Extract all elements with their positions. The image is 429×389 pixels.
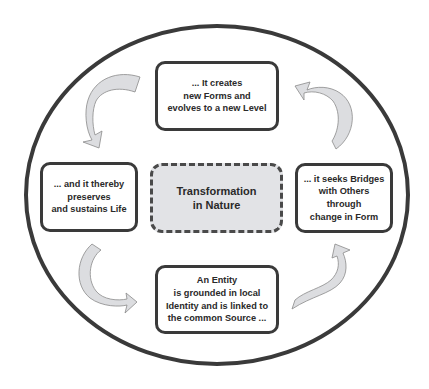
curved-arrow-icon-top-right [295, 82, 352, 149]
node-bottom-line: the common Source ... [168, 312, 267, 325]
node-top-line: evolves to a new Level [167, 102, 266, 115]
curved-arrow-icon-bottom-right [292, 244, 350, 309]
node-right-line: ... it seeks Bridges [304, 173, 385, 186]
node-top: ... It creates new Forms and evolves to … [155, 61, 279, 131]
node-bottom-line: is grounded in local [174, 287, 261, 300]
node-right-line: change in Form [310, 211, 378, 224]
node-left-line: preserves [67, 191, 110, 204]
node-right: ... it seeks Bridges with Others through… [295, 163, 393, 233]
center-title-line: Transformation [176, 184, 256, 199]
curved-arrow-icon-bottom-left [79, 244, 137, 313]
node-left-line: and sustains Life [51, 203, 126, 216]
node-right-line: with Others [319, 185, 370, 198]
node-right-line: through [327, 198, 362, 211]
node-left-line: ... and it thereby [54, 178, 124, 191]
center-title-line: in Nature [193, 198, 241, 213]
node-left: ... and it thereby preserves and sustain… [40, 162, 138, 232]
curved-arrow-icon-top-left [83, 75, 140, 148]
node-bottom-line: An Entity [197, 274, 237, 287]
center-node: Transformation in Nature [150, 163, 283, 233]
node-bottom-line: Identity and is linked to [166, 300, 268, 313]
node-top-line: new Forms and [183, 90, 250, 103]
node-bottom: An Entity is grounded in local Identity … [155, 265, 279, 334]
node-top-line: ... It creates [192, 77, 243, 90]
